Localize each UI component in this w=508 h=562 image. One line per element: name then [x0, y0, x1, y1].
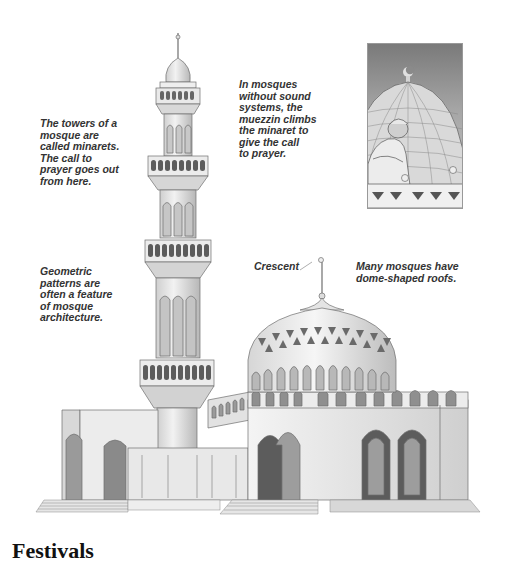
- minaret: [140, 33, 214, 450]
- crescent-leader-line: [300, 262, 312, 270]
- dome: [248, 258, 396, 393]
- steps: [36, 500, 480, 514]
- section-heading: Festivals: [12, 538, 94, 562]
